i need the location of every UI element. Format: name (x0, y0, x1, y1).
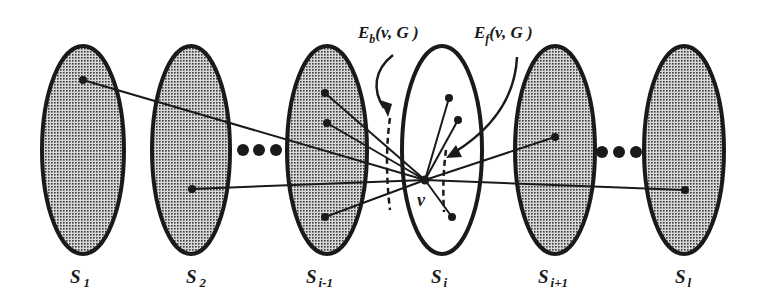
set-si-plus-1-ellipse (515, 46, 595, 254)
label-s2: S2 (186, 266, 207, 290)
label-sl: Sl (675, 266, 692, 290)
label-eb: Eb(v, G ) (357, 23, 419, 46)
endpoint-sl (681, 186, 689, 194)
endpoint-s2 (188, 185, 196, 193)
set-si-minus-1-ellipse (287, 46, 367, 254)
endpoint-si+1 (551, 133, 559, 141)
label-si-plus-1: Si+1 (538, 266, 568, 290)
endpoint-si-1-b (323, 119, 331, 127)
endpoint-si-c (448, 213, 456, 221)
set-sl-ellipse (644, 46, 724, 254)
label-si: Si (431, 266, 448, 290)
set-labels: S1 S2 Si-1 Si Si+1 Sl (70, 266, 692, 290)
vertex-v (421, 176, 430, 185)
edge-v-s1 (83, 80, 425, 180)
ellipsis-right (596, 146, 642, 158)
endpoint-si-1-a (321, 89, 329, 97)
endpoint-si-b (454, 116, 462, 124)
label-ef: Ef(v, G ) (473, 23, 533, 46)
endpoint-si-a (445, 94, 453, 102)
endpoint-s1 (79, 76, 87, 84)
eb-arrowhead-icon (380, 100, 392, 117)
label-s1: S1 (70, 266, 90, 290)
backward-cut-dashed-line (387, 118, 390, 210)
endpoint-si-1-c (321, 213, 329, 221)
ellipsis-left (237, 144, 282, 156)
set-s2-ellipse (152, 46, 230, 254)
eb-pointer-arrow (377, 55, 393, 108)
label-si-minus-1: Si-1 (306, 266, 333, 290)
label-vertex-v: v (417, 190, 426, 210)
vertex-partition-diagram: Eb(v, G ) Ef(v, G ) v S1 S2 Si-1 Si Si+1… (0, 0, 760, 307)
